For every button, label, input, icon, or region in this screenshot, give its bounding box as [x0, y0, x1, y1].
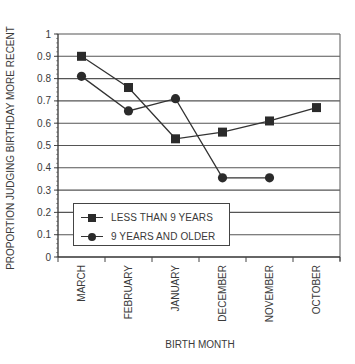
y-tick-label: 1: [45, 29, 51, 40]
line-chart: 00.10.20.30.40.50.60.70.80.91 MARCHFEBRU…: [0, 0, 355, 364]
x-tick-label: NOVEMBER: [264, 265, 275, 322]
y-tick-label: 0.9: [37, 51, 51, 62]
y-tick-label: 0.4: [37, 162, 51, 173]
square-marker-icon: [312, 103, 321, 112]
x-tick-label: FEBRUARY: [123, 265, 134, 320]
data-series: [77, 52, 321, 183]
square-marker-icon: [265, 116, 274, 125]
circle-marker-icon: [218, 173, 227, 182]
square-marker-icon: [171, 134, 180, 143]
circle-marker-icon: [124, 106, 133, 115]
legend-item-9-and-older: 9 YEARS AND OLDER: [74, 228, 215, 244]
square-marker-icon: [77, 52, 86, 61]
y-tick-label: 0: [45, 252, 51, 263]
x-tick-label: MARCH: [76, 265, 87, 302]
y-tick-label: 0.6: [37, 118, 51, 129]
y-tick-label: 0.8: [37, 73, 51, 84]
square-marker-icon: [218, 128, 227, 137]
chart-canvas: 00.10.20.30.40.50.60.70.80.91 MARCHFEBRU…: [0, 0, 355, 364]
legend: LESS THAN 9 YEARS 9 YEARS AND OLDER: [73, 203, 230, 246]
y-axis-label: PROPORTION JUDGING BIRTHDAY MORE RECENT: [5, 26, 16, 270]
y-tick-label: 0.7: [37, 95, 51, 106]
y-tick-label: 0.2: [37, 207, 51, 218]
square-marker-icon: [124, 83, 133, 92]
circle-marker-icon: [77, 72, 86, 81]
square-marker-icon: [81, 211, 103, 223]
series-line: [82, 56, 317, 139]
x-tick-label: OCTOBER: [311, 265, 322, 314]
circle-marker-icon: [171, 94, 180, 103]
x-axis: MARCHFEBRUARYJANUARYDECEMBERNOVEMBEROCTO…: [58, 257, 340, 322]
circle-marker-icon: [81, 230, 103, 242]
x-tick-label: DECEMBER: [217, 265, 228, 322]
x-axis-label: BIRTH MONTH: [165, 339, 234, 350]
y-tick-label: 0.5: [37, 140, 51, 151]
y-tick-label: 0.1: [37, 229, 51, 240]
x-tick-label: JANUARY: [170, 265, 181, 312]
legend-label: 9 YEARS AND OLDER: [111, 231, 215, 242]
legend-item-less-than-9: LESS THAN 9 YEARS: [74, 209, 213, 225]
y-tick-label: 0.3: [37, 185, 51, 196]
legend-label: LESS THAN 9 YEARS: [111, 212, 213, 223]
circle-marker-icon: [265, 173, 274, 182]
